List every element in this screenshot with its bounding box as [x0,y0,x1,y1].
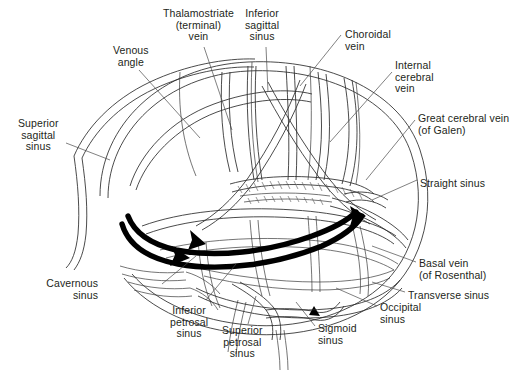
anatomy-figure: Superior sagittal sinusVenous angleThala… [0,0,520,378]
leader-straight-sinus [372,180,417,200]
bold-arrowhead-left-upper [188,230,206,250]
leader-thalamostriate-vein [204,47,232,130]
label-basal-vein: Basal vein (of Rosenthal) [419,258,486,281]
label-cavernous-sinus: Cavernous sinus [46,278,98,301]
leader-internal-cerebral-vein [330,72,392,142]
label-superior-sagittal-sinus: Superior sagittal sinus [18,118,59,153]
label-inferior-petrosal-sinus: Inferior petrosal sinus [170,305,208,340]
occipital-and-transverse-arc [196,280,402,318]
superior-sagittal-sinus-vessel [66,59,255,270]
leader-venous-angle [139,70,200,138]
label-choroidal-vein: Choroidal vein [345,29,391,52]
leader-lines-group [66,35,417,326]
label-thalamostriate-vein: Thalamostriate (terminal) vein [163,8,234,43]
leader-superior-petrosal-sinus [248,296,256,324]
label-transverse-sinus: Transverse sinus [408,290,489,302]
label-venous-angle: Venous angle [113,45,149,68]
label-occipital-sinus: Occipital sinus [380,302,421,325]
label-great-cerebral-vein: Great cerebral vein (of Galen) [418,113,509,136]
label-sigmoid-sinus: Sigmoid sinus [318,323,357,346]
emphasized-sinus-flow-arrows [122,206,366,267]
label-internal-cerebral-vein: Internal cerebral vein [395,60,434,95]
choroid-plexus-hatching [238,181,362,199]
leader-inferior-sagittal-sinus [266,47,268,92]
label-straight-sinus: Straight sinus [420,178,485,190]
leader-great-cerebral-vein [366,120,415,180]
leader-superior-sagittal-sinus [66,143,110,160]
falx-cerebri-struts [180,62,360,184]
label-superior-petrosal-sinus: Superior petrosal sinus [222,325,263,360]
label-inferior-sagittal-sinus: Inferior sagittal sinus [245,8,279,43]
